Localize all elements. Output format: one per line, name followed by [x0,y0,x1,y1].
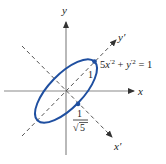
semi-minor-length-label: 1 √ 5 [73,108,88,133]
semi-major-point [92,59,97,64]
y-prime-axis [22,40,116,136]
semi-major-length-label: 1 [88,69,93,80]
ellipse-equation: 5x′2 + y′2 = 1 [100,58,152,70]
y-prime-label: y′ [117,31,126,43]
fraction-numerator: 1 [77,108,82,119]
x-axis-label: x [137,85,143,97]
semi-minor-point [76,102,81,107]
ellipse-diagram: y x y′ x′ 5x′2 + y′2 = 1 1 1 √ 5 [0,0,166,164]
y-axis-label: y [61,4,67,16]
fraction-denominator: 5 [80,122,85,133]
sqrt-symbol: √ [73,122,79,133]
x-prime-label: x′ [113,140,122,152]
